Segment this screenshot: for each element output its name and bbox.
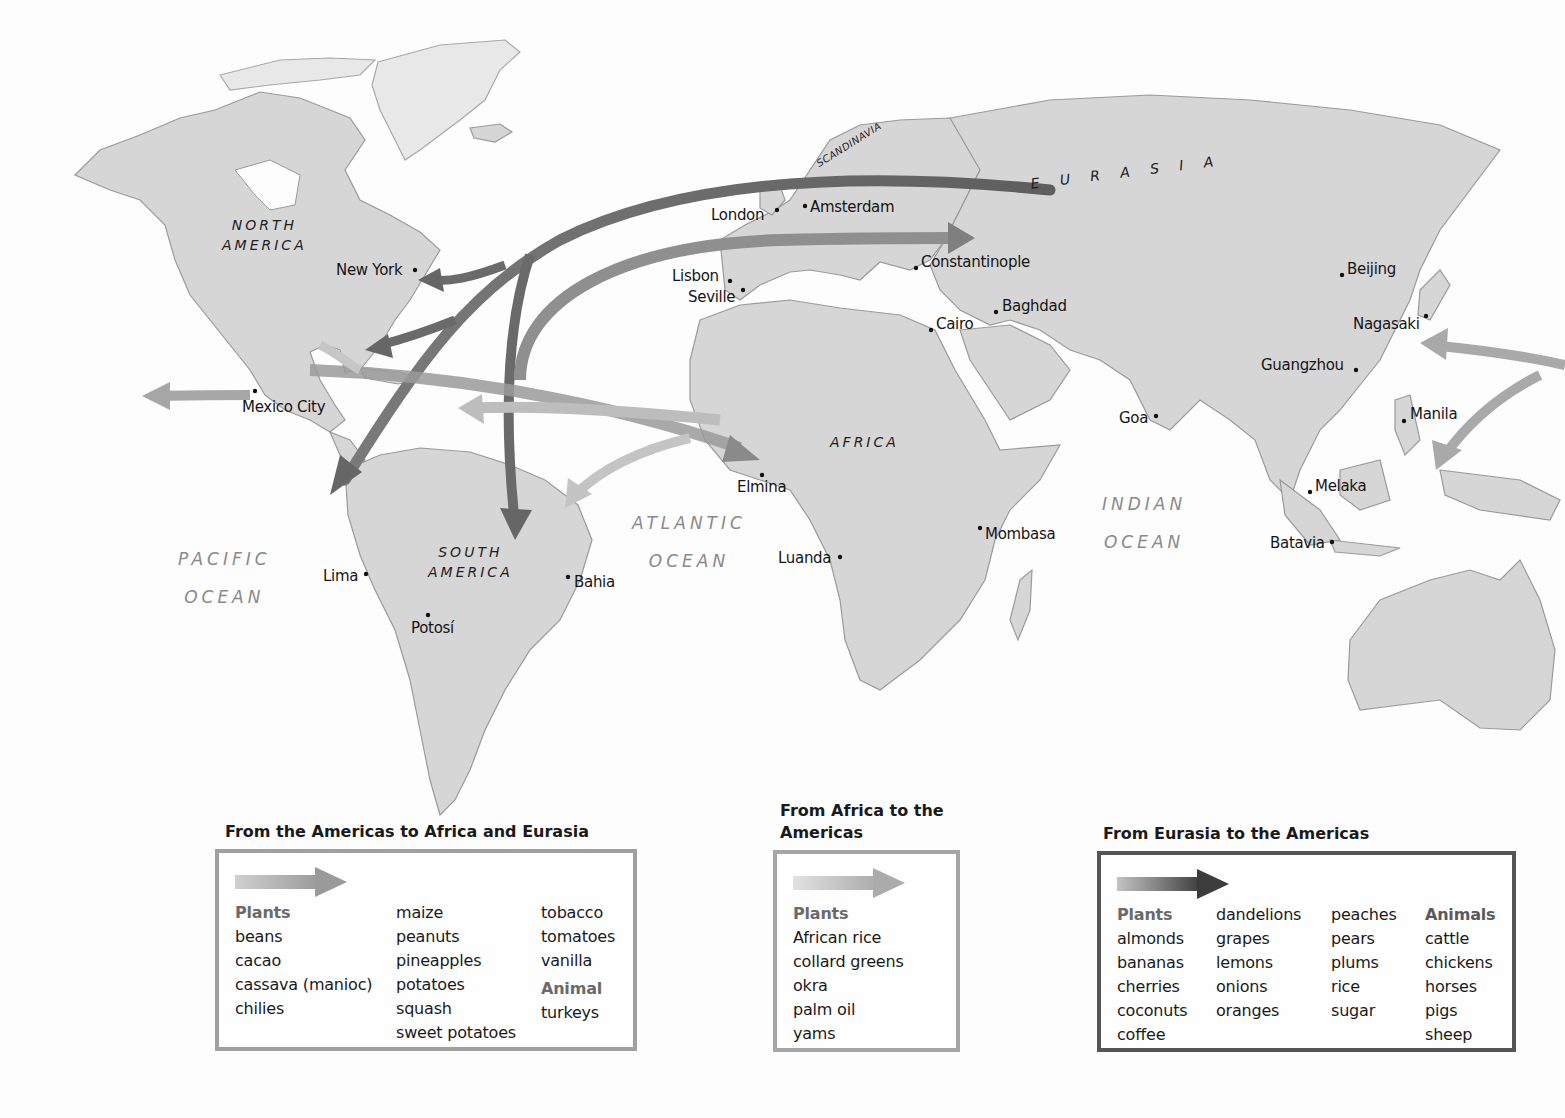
- legend-item: turkeys: [541, 1001, 615, 1025]
- legend-eurasia-col-4: Animals cattle chickens horses pigs shee…: [1425, 903, 1495, 1047]
- region-label-north-america: NORTH AMERICA: [222, 215, 307, 255]
- city-label-lima: Lima: [323, 567, 358, 585]
- city-label-constantinople: Constantinople: [921, 253, 1030, 271]
- city-label-elmina: Elmina: [737, 478, 786, 496]
- legend-item: cherries: [1117, 975, 1216, 999]
- city-label-batavia: Batavia: [1270, 534, 1325, 552]
- legend-box-americas: Plants beans cacao cassava (manioc) chil…: [215, 849, 637, 1051]
- city-label-mombasa: Mombasa: [985, 525, 1055, 543]
- city-label-guangzhou: Guangzhou: [1261, 356, 1344, 374]
- city-label-manila: Manila: [1410, 405, 1457, 423]
- arrow-pacific-to-philippines: [1445, 375, 1540, 455]
- city-label-seville: Seville: [688, 288, 735, 306]
- legend-item: sweet potatoes: [396, 1021, 541, 1045]
- legend-title-eurasia: From Eurasia to the Americas: [1103, 823, 1369, 845]
- city-label-goa: Goa: [1119, 409, 1148, 427]
- legend-item: collard greens: [793, 950, 904, 974]
- legend-item: horses: [1425, 975, 1495, 999]
- legend-eurasia-col-2: dandelions grapes lemons onions oranges: [1216, 903, 1331, 1047]
- legend-americas-col-1: Plants beans cacao cassava (manioc) chil…: [235, 901, 396, 1045]
- legend-item: coconuts: [1117, 999, 1216, 1023]
- legend-item: maize: [396, 901, 541, 925]
- region-label-south-america: SOUTH AMERICA: [428, 542, 513, 582]
- legend-americas-col-3: tobacco tomatoes vanilla Animal turkeys: [541, 901, 615, 1045]
- legend-box-africa: Plants African rice collard greens okra …: [773, 850, 960, 1052]
- legend-item: dandelions: [1216, 903, 1331, 927]
- city-label-beijing: Beijing: [1347, 260, 1396, 278]
- legend-item: pigs: [1425, 999, 1495, 1023]
- city-label-nagasaki: Nagasaki: [1353, 315, 1420, 333]
- city-label-potosi: Potosí: [411, 619, 454, 637]
- australia-landmass: [1348, 560, 1555, 730]
- legend-box-eurasia: Plants almonds bananas cherries coconuts…: [1097, 851, 1516, 1052]
- legend-item: oranges: [1216, 999, 1331, 1023]
- legend-item: cassava (manioc): [235, 973, 396, 997]
- south-america-landmass: [345, 448, 592, 815]
- legend-heading-animals: Animals: [1425, 903, 1495, 927]
- legend-heading-plants: Plants: [793, 902, 904, 926]
- arrow-legend-eurasia-icon: [1117, 869, 1229, 899]
- city-label-melaka: Melaka: [1315, 477, 1366, 495]
- legend-item: African rice: [793, 926, 904, 950]
- arrow-legend-africa-icon: [793, 868, 905, 898]
- legend-item: vanilla: [541, 949, 615, 973]
- legend-item: almonds: [1117, 927, 1216, 951]
- legend-item: peaches: [1331, 903, 1425, 927]
- city-label-baghdad: Baghdad: [1002, 297, 1067, 315]
- legend-heading-plants: Plants: [1117, 903, 1216, 927]
- legend-item: peanuts: [396, 925, 541, 949]
- city-label-luanda: Luanda: [778, 549, 831, 567]
- legend-item: yams: [793, 1022, 904, 1046]
- arrow-americas-to-asia-pacific: [160, 395, 250, 396]
- legend-item: cattle: [1425, 927, 1495, 951]
- ocean-label-atlantic: ATLANTIC OCEAN: [632, 504, 746, 580]
- legend-item: palm oil: [793, 998, 904, 1022]
- legend-item: chilies: [235, 997, 396, 1021]
- legend-item: sheep: [1425, 1023, 1495, 1047]
- arrow-legend-americas-icon: [235, 867, 347, 897]
- legend-item: pineapples: [396, 949, 541, 973]
- city-label-mexico-city: Mexico City: [242, 398, 325, 416]
- city-label-london: London: [711, 206, 764, 224]
- legend-title-americas: From the Americas to Africa and Eurasia: [225, 821, 589, 843]
- city-label-lisbon: Lisbon: [672, 267, 719, 285]
- city-label-amsterdam: Amsterdam: [810, 198, 894, 216]
- city-label-cairo: Cairo: [936, 315, 973, 333]
- legend-item: plums: [1331, 951, 1425, 975]
- arrow-africa-to-americas-brazil: [575, 438, 690, 495]
- legend-item: lemons: [1216, 951, 1331, 975]
- region-label-africa: AFRICA: [830, 432, 899, 452]
- legend-item: sugar: [1331, 999, 1425, 1023]
- legend-eurasia-col-1: Plants almonds bananas cherries coconuts…: [1117, 903, 1216, 1047]
- legend-title-africa: From Africa to the Americas: [780, 800, 944, 844]
- legend-item: potatoes: [396, 973, 541, 997]
- legend-africa-col-1: Plants African rice collard greens okra …: [793, 902, 904, 1046]
- legend-africa-columns: Plants African rice collard greens okra …: [793, 902, 904, 1046]
- legend-item: tobacco: [541, 901, 615, 925]
- city-label-bahia: Bahia: [574, 573, 615, 591]
- legend-item: grapes: [1216, 927, 1331, 951]
- legend-item: cacao: [235, 949, 396, 973]
- legend-item: squash: [396, 997, 541, 1021]
- legend-item: beans: [235, 925, 396, 949]
- legend-item: tomatoes: [541, 925, 615, 949]
- legend-americas-col-2: maize peanuts pineapples potatoes squash…: [396, 901, 541, 1045]
- legend-item: okra: [793, 974, 904, 998]
- ocean-label-indian: INDIAN OCEAN: [1102, 485, 1186, 561]
- legend-americas-columns: Plants beans cacao cassava (manioc) chil…: [235, 901, 615, 1045]
- ocean-label-pacific: PACIFIC OCEAN: [178, 540, 271, 616]
- arrow-pacific-to-china: [1440, 346, 1565, 365]
- greenland-landmass: [372, 40, 520, 160]
- legend-heading-animal: Animal: [541, 977, 615, 1001]
- legend-eurasia-col-3: peaches pears plums rice sugar: [1331, 903, 1425, 1047]
- legend-item: coffee: [1117, 1023, 1216, 1047]
- legend-item: chickens: [1425, 951, 1495, 975]
- legend-item: pears: [1331, 927, 1425, 951]
- legend-item: onions: [1216, 975, 1331, 999]
- city-label-new-york: New York: [336, 261, 402, 279]
- legend-eurasia-columns: Plants almonds bananas cherries coconuts…: [1117, 903, 1495, 1047]
- legend-item: rice: [1331, 975, 1425, 999]
- legend-heading-plants: Plants: [235, 901, 396, 925]
- legend-item: bananas: [1117, 951, 1216, 975]
